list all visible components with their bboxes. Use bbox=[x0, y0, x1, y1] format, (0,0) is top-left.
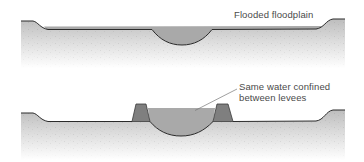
levee-right bbox=[213, 104, 233, 122]
label-confined-water-line2: between levees bbox=[239, 92, 330, 103]
panel-flooded-floodplain bbox=[21, 19, 345, 68]
levee-left bbox=[132, 104, 150, 122]
label-confined-water-line1: Same water confined bbox=[239, 81, 330, 92]
label-flooded-floodplain: Flooded floodplain bbox=[234, 9, 313, 20]
label-confined-water: Same water confined between levees bbox=[239, 81, 330, 103]
